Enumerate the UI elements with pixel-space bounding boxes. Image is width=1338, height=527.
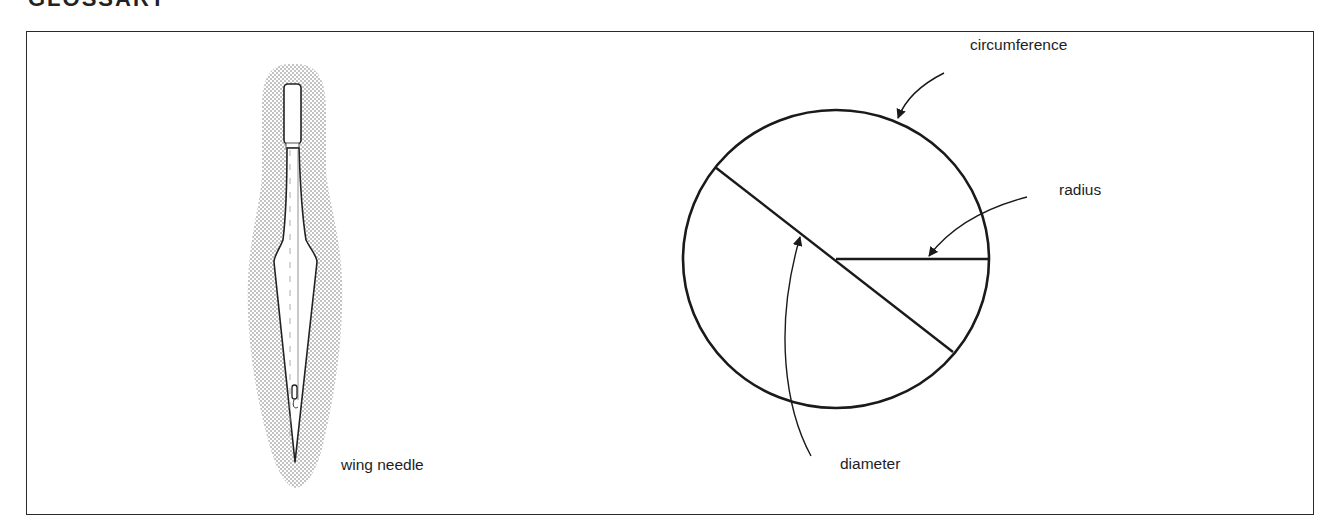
circle-diagram-icon bbox=[683, 110, 989, 408]
radius-label: radius bbox=[1059, 181, 1101, 199]
figure-artwork bbox=[0, 0, 1338, 527]
circumference-arrow-icon bbox=[898, 73, 944, 118]
diameter-label: diameter bbox=[840, 455, 900, 473]
wing-needle-label: wing needle bbox=[341, 456, 424, 474]
circumference-label: circumference bbox=[970, 36, 1067, 54]
wing-needle-icon bbox=[248, 64, 343, 488]
diameter-arrow-icon bbox=[785, 237, 811, 456]
